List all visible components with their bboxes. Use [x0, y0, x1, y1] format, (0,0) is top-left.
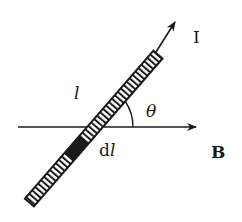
- angle-arc: [125, 101, 133, 127]
- label-element-l: l: [110, 140, 115, 160]
- conductor-rod: [25, 51, 163, 207]
- label-element-dl: dl: [99, 140, 115, 160]
- label-current-i: I: [193, 27, 200, 47]
- label-element-d: d: [99, 140, 110, 160]
- diagram-canvas: I l θ dl B: [0, 0, 242, 222]
- label-field-b: B: [211, 142, 225, 162]
- current-arrow: [156, 22, 175, 52]
- label-length-l: l: [74, 83, 79, 103]
- label-angle-theta: θ: [146, 101, 156, 121]
